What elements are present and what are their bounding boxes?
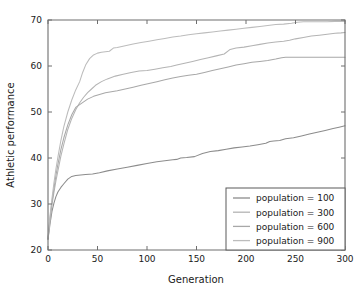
y-tick-label: 60 [31, 61, 43, 71]
x-tick-label: 300 [336, 254, 353, 264]
x-tick-label: 50 [92, 254, 104, 264]
x-tick-label: 250 [287, 254, 304, 264]
x-tick-label: 100 [138, 254, 155, 264]
line-chart: 050100150200250300 203040506070 Generati… [0, 0, 361, 298]
y-tick-label: 50 [31, 107, 43, 117]
y-tick-label: 30 [31, 199, 43, 209]
y-tick-label: 20 [31, 245, 43, 255]
legend-label-4: population = 900 [256, 236, 335, 246]
legend[interactable]: population = 100population = 300populati… [226, 188, 345, 250]
y-tick-label: 40 [31, 153, 43, 163]
y-tick-label: 70 [31, 15, 43, 25]
chart-figure: 050100150200250300 203040506070 Generati… [0, 0, 361, 298]
y-axis-title: Athletic performance [5, 82, 16, 187]
x-tick-label: 200 [237, 254, 254, 264]
legend-label-2: population = 300 [256, 208, 335, 218]
legend-label-3: population = 600 [256, 222, 335, 232]
x-tick-label: 0 [45, 254, 51, 264]
legend-label-1: population = 100 [256, 193, 335, 203]
x-tick-label: 150 [188, 254, 205, 264]
x-axis-title: Generation [168, 274, 224, 285]
